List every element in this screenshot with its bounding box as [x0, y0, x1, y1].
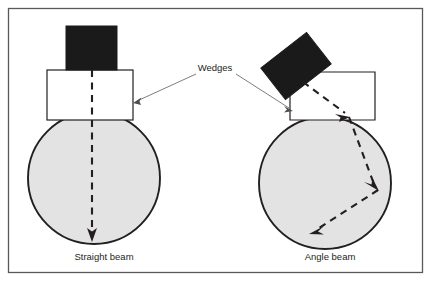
panel-angle-beam: Angle beam [236, 32, 391, 262]
specimen-circle-angle [259, 117, 391, 249]
caption-straight-beam: Straight beam [74, 251, 133, 262]
caption-angle-beam: Angle beam [305, 251, 356, 262]
diagram-canvas: Straight beam Angle beam Wedges [0, 0, 431, 291]
leader-line-left-wedge [137, 74, 196, 101]
leader-arrowhead-left [133, 98, 142, 106]
figure-container: Straight beam Angle beam Wedges [0, 0, 431, 291]
transducer-straight [66, 26, 117, 70]
callout-label-wedges: Wedges [198, 62, 233, 73]
panel-straight-beam: Straight beam [28, 26, 196, 262]
specimen-circle-straight [28, 112, 160, 244]
wedge-block-straight [47, 70, 133, 120]
